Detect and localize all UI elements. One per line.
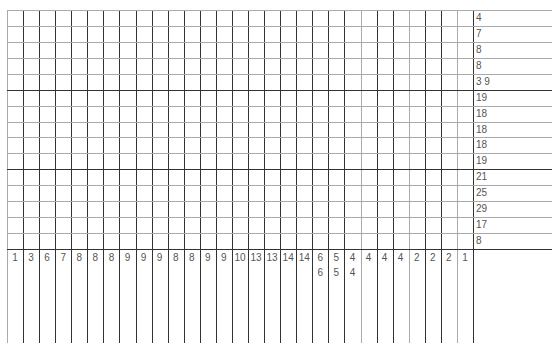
grid-cell[interactable] — [136, 137, 152, 153]
grid-cell[interactable] — [200, 153, 216, 169]
grid-cell[interactable] — [393, 153, 409, 169]
grid-cell[interactable] — [393, 217, 409, 233]
grid-cell[interactable] — [152, 10, 168, 26]
grid-cell[interactable] — [393, 169, 409, 185]
grid-cell[interactable] — [457, 233, 473, 249]
grid-cell[interactable] — [216, 233, 232, 249]
grid-cell[interactable] — [248, 42, 264, 58]
grid-cell[interactable] — [71, 10, 87, 26]
grid-cell[interactable] — [71, 58, 87, 74]
grid-cell[interactable] — [23, 153, 39, 169]
grid-cell[interactable] — [184, 169, 200, 185]
grid-cell[interactable] — [136, 185, 152, 201]
grid-cell[interactable] — [280, 42, 296, 58]
grid-cell[interactable] — [119, 10, 135, 26]
grid-cell[interactable] — [361, 26, 377, 42]
grid-cell[interactable] — [425, 153, 441, 169]
grid-cell[interactable] — [441, 74, 457, 90]
grid-cell[interactable] — [200, 185, 216, 201]
grid-cell[interactable] — [39, 106, 55, 122]
grid-cell[interactable] — [409, 122, 425, 138]
grid-cell[interactable] — [264, 122, 280, 138]
grid-cell[interactable] — [23, 137, 39, 153]
grid-cell[interactable] — [457, 137, 473, 153]
grid-cell[interactable] — [344, 10, 360, 26]
grid-cell[interactable] — [280, 58, 296, 74]
grid-cell[interactable] — [441, 137, 457, 153]
grid-cell[interactable] — [136, 153, 152, 169]
grid-cell[interactable] — [328, 153, 344, 169]
grid-cell[interactable] — [377, 201, 393, 217]
grid-cell[interactable] — [457, 153, 473, 169]
grid-cell[interactable] — [87, 10, 103, 26]
grid-cell[interactable] — [377, 106, 393, 122]
grid-cell[interactable] — [87, 106, 103, 122]
grid-cell[interactable] — [152, 90, 168, 106]
grid-cell[interactable] — [280, 233, 296, 249]
grid-cell[interactable] — [312, 217, 328, 233]
grid-cell[interactable] — [200, 26, 216, 42]
grid-cell[interactable] — [264, 153, 280, 169]
grid-cell[interactable] — [457, 169, 473, 185]
grid-cell[interactable] — [152, 169, 168, 185]
grid-cell[interactable] — [87, 233, 103, 249]
grid-cell[interactable] — [248, 122, 264, 138]
grid-cell[interactable] — [23, 10, 39, 26]
grid-cell[interactable] — [152, 201, 168, 217]
grid-cell[interactable] — [71, 122, 87, 138]
grid-cell[interactable] — [39, 26, 55, 42]
grid-cell[interactable] — [71, 106, 87, 122]
grid-cell[interactable] — [441, 153, 457, 169]
grid-cell[interactable] — [377, 10, 393, 26]
grid-cell[interactable] — [55, 58, 71, 74]
grid-cell[interactable] — [184, 58, 200, 74]
grid-cell[interactable] — [441, 58, 457, 74]
grid-cell[interactable] — [296, 90, 312, 106]
grid-cell[interactable] — [344, 74, 360, 90]
grid-cell[interactable] — [425, 137, 441, 153]
grid-cell[interactable] — [55, 185, 71, 201]
grid-cell[interactable] — [344, 90, 360, 106]
grid-cell[interactable] — [377, 217, 393, 233]
grid-cell[interactable] — [168, 26, 184, 42]
grid-cell[interactable] — [312, 169, 328, 185]
grid-cell[interactable] — [23, 106, 39, 122]
grid-cell[interactable] — [216, 153, 232, 169]
grid-cell[interactable] — [328, 106, 344, 122]
grid-cell[interactable] — [280, 26, 296, 42]
grid-cell[interactable] — [200, 58, 216, 74]
grid-cell[interactable] — [441, 233, 457, 249]
grid-cell[interactable] — [377, 74, 393, 90]
grid-cell[interactable] — [87, 153, 103, 169]
grid-cell[interactable] — [328, 122, 344, 138]
grid-cell[interactable] — [264, 74, 280, 90]
grid-cell[interactable] — [71, 233, 87, 249]
grid-cell[interactable] — [312, 137, 328, 153]
grid-cell[interactable] — [168, 169, 184, 185]
grid-cell[interactable] — [55, 42, 71, 58]
grid-cell[interactable] — [103, 233, 119, 249]
grid-cell[interactable] — [71, 90, 87, 106]
grid-cell[interactable] — [119, 26, 135, 42]
grid-cell[interactable] — [344, 233, 360, 249]
grid-cell[interactable] — [377, 122, 393, 138]
grid-cell[interactable] — [136, 74, 152, 90]
grid-cell[interactable] — [152, 26, 168, 42]
grid-cell[interactable] — [409, 74, 425, 90]
grid-cell[interactable] — [216, 122, 232, 138]
grid-cell[interactable] — [393, 26, 409, 42]
grid-cell[interactable] — [312, 58, 328, 74]
grid-cell[interactable] — [441, 90, 457, 106]
grid-cell[interactable] — [264, 58, 280, 74]
grid-cell[interactable] — [425, 106, 441, 122]
grid-cell[interactable] — [71, 169, 87, 185]
grid-cell[interactable] — [71, 26, 87, 42]
grid-cell[interactable] — [103, 201, 119, 217]
grid-cell[interactable] — [441, 106, 457, 122]
grid-cell[interactable] — [296, 185, 312, 201]
grid-cell[interactable] — [457, 185, 473, 201]
grid-cell[interactable] — [296, 42, 312, 58]
grid-cell[interactable] — [296, 169, 312, 185]
grid-cell[interactable] — [55, 153, 71, 169]
grid-cell[interactable] — [168, 217, 184, 233]
